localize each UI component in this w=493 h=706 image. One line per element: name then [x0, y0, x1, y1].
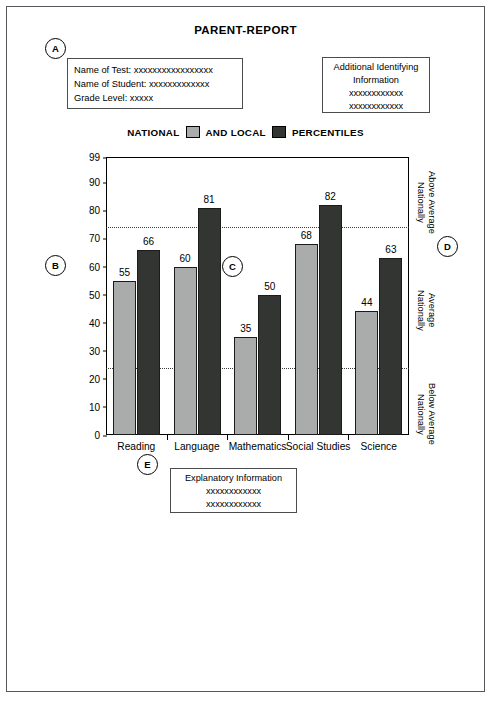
- bar-value-label: 50: [264, 281, 275, 292]
- bar-national[interactable]: [355, 311, 378, 435]
- x-axis-tick: [348, 435, 349, 440]
- report-page: PARENT-REPORT A B C D E Name of Test: xx…: [6, 6, 485, 692]
- band-label-above-average: Above Average Nationally: [415, 162, 437, 242]
- callout-marker-d: D: [437, 236, 458, 257]
- explanatory-title: Explanatory Information: [171, 472, 296, 485]
- x-axis-category-label: Science: [341, 441, 417, 454]
- callout-marker-b: B: [45, 255, 66, 276]
- test-name-line: Name of Test: xxxxxxxxxxxxxxxxx: [74, 63, 242, 77]
- bar-national[interactable]: [174, 267, 197, 435]
- bar-local[interactable]: [319, 205, 342, 435]
- explanatory-placeholder-line-2: xxxxxxxxxxxx: [171, 498, 296, 511]
- percentile-bar-chart: 010203040506070809099 5566Reading6081Lan…: [106, 157, 409, 435]
- band-label-average: Average Nationally: [415, 279, 437, 341]
- y-axis-tick-label: 60: [89, 261, 106, 272]
- bar-value-label: 55: [119, 267, 130, 278]
- y-axis-tick-label: 80: [89, 205, 106, 216]
- legend-swatch-national: [186, 126, 200, 138]
- x-axis-tick: [227, 435, 228, 440]
- callout-marker-a: A: [45, 38, 66, 59]
- bar-value-label: 81: [204, 194, 215, 205]
- y-axis-tick-label: 70: [89, 233, 106, 244]
- y-axis-tick-label: 99: [89, 152, 106, 163]
- bar-local[interactable]: [137, 250, 160, 435]
- bar-value-label: 82: [325, 191, 336, 202]
- student-identification-box: Name of Test: xxxxxxxxxxxxxxxxx Name of …: [67, 58, 243, 109]
- y-axis-tick-label: 50: [89, 289, 106, 300]
- bar-value-label: 68: [301, 230, 312, 241]
- bar-national[interactable]: [113, 281, 136, 435]
- explanatory-information-box: Explanatory Information xxxxxxxxxxxx xxx…: [170, 468, 297, 513]
- bar-group: 5566Reading: [106, 157, 167, 435]
- y-axis-tick-label: 40: [89, 317, 106, 328]
- bar-group: 3550Mathematics: [227, 157, 288, 435]
- bar-national[interactable]: [295, 244, 318, 435]
- legend-label-percentiles: PERCENTILES: [292, 127, 364, 138]
- y-axis-tick-label: 90: [89, 177, 106, 188]
- grade-level-line: Grade Level: xxxxx: [74, 91, 242, 105]
- student-name-line: Name of Student: xxxxxxxxxxxxx: [74, 77, 242, 91]
- chart-legend: NATIONAL AND LOCAL PERCENTILES: [7, 126, 484, 138]
- additional-title-line-1: Additional Identifying: [326, 61, 426, 74]
- y-axis-tick-label: 20: [89, 373, 106, 384]
- bar-local[interactable]: [198, 208, 221, 435]
- bar-local[interactable]: [379, 258, 402, 435]
- explanatory-placeholder-line-1: xxxxxxxxxxxx: [171, 485, 296, 498]
- bar-value-label: 60: [180, 253, 191, 264]
- legend-label-and-local: AND LOCAL: [206, 127, 266, 138]
- bar-group: 4463Science: [348, 157, 409, 435]
- additional-placeholder-line-1: xxxxxxxxxxxx: [326, 87, 426, 100]
- x-axis-tick: [167, 435, 168, 440]
- legend-label-national: NATIONAL: [127, 127, 179, 138]
- legend-swatch-local: [272, 126, 286, 138]
- x-axis-tick: [288, 435, 289, 440]
- band-label-below-average: Below Average Nationally: [415, 374, 437, 454]
- bar-group: 6081Language: [167, 157, 228, 435]
- additional-placeholder-line-2: xxxxxxxxxxxx: [326, 100, 426, 113]
- bar-group: 6882Social Studies: [288, 157, 349, 435]
- page-title: PARENT-REPORT: [7, 24, 484, 36]
- bar-value-label: 44: [361, 297, 372, 308]
- bar-national[interactable]: [234, 337, 257, 435]
- bar-value-label: 63: [385, 244, 396, 255]
- bar-value-label: 35: [240, 323, 251, 334]
- additional-identifying-information-box: Additional Identifying Information xxxxx…: [322, 57, 430, 113]
- y-axis-tick-label: 0: [94, 430, 106, 441]
- bar-value-label: 66: [143, 236, 154, 247]
- bar-local[interactable]: [258, 295, 281, 435]
- additional-title-line-2: Information: [326, 74, 426, 87]
- callout-marker-e: E: [137, 454, 158, 475]
- y-axis-tick-label: 10: [89, 401, 106, 412]
- y-axis-tick-label: 30: [89, 345, 106, 356]
